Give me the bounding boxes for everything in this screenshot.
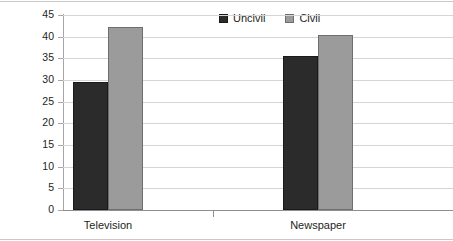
chart-top-border	[0, 1, 453, 2]
chart-bottom-border	[0, 239, 453, 240]
y-tick-label: 35	[0, 52, 54, 63]
y-tick-label: 45	[0, 9, 54, 20]
y-tick-label: 0	[0, 204, 54, 215]
bar-newspaper-civil	[318, 35, 353, 210]
x-axis-label-newspaper: Newspaper	[258, 219, 378, 231]
bar-chart: Uncivil Civil 051015202530354045 Televis…	[0, 0, 453, 241]
bar-television-uncivil	[73, 82, 108, 210]
y-tick-label: 30	[0, 74, 54, 85]
y-tick-label: 5	[0, 182, 54, 193]
x-axis-line	[63, 210, 453, 211]
y-tick-label: 40	[0, 31, 54, 42]
x-axis-category-separator	[213, 210, 214, 217]
x-axis-label-television: Television	[48, 219, 168, 231]
y-tick-label: 25	[0, 96, 54, 107]
bar-newspaper-uncivil	[283, 56, 318, 210]
y-tick-label: 15	[0, 139, 54, 150]
bar-television-civil	[108, 27, 143, 210]
plot-area	[63, 15, 453, 210]
gridline	[63, 15, 453, 16]
y-tick-label: 10	[0, 161, 54, 172]
y-tick-label: 20	[0, 117, 54, 128]
